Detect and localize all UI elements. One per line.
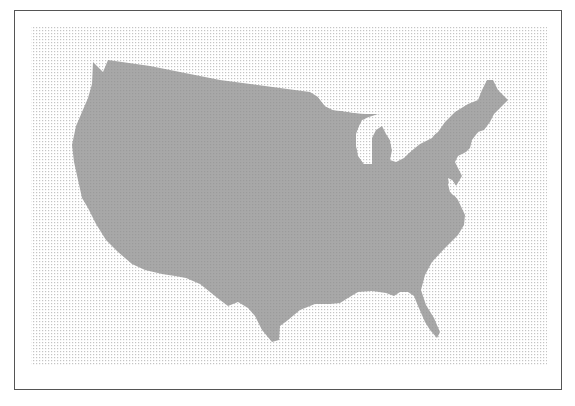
map-canvas [0, 0, 575, 406]
